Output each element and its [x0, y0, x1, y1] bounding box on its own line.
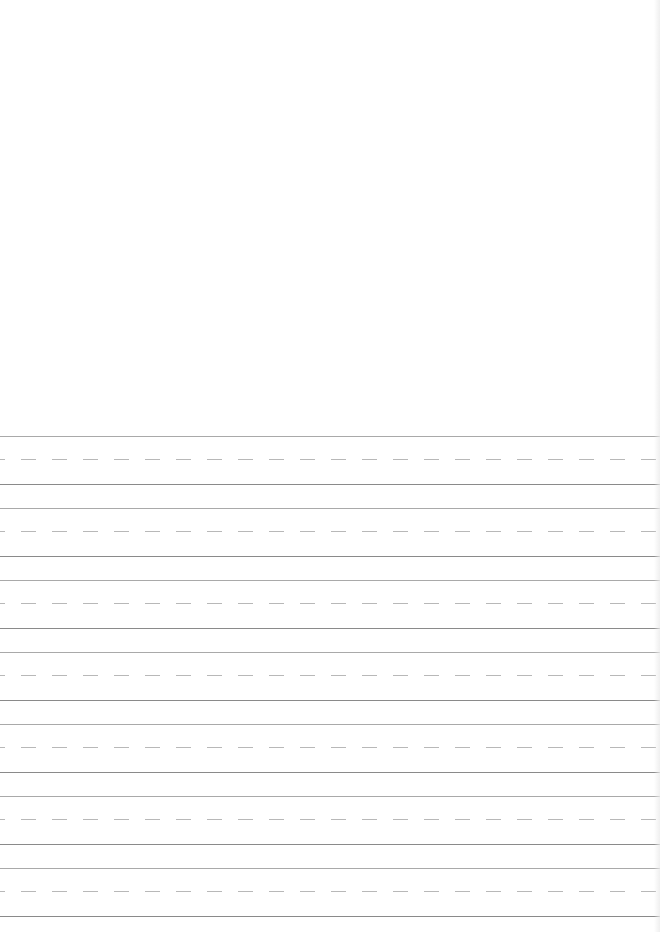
top-line	[0, 796, 660, 797]
baseline	[0, 916, 660, 917]
dashed-midline	[0, 531, 660, 532]
writing-row[interactable]	[0, 796, 660, 844]
top-line	[0, 580, 660, 581]
writing-row[interactable]	[0, 508, 660, 556]
writing-row[interactable]	[0, 868, 660, 916]
practice-sheet	[0, 0, 660, 932]
top-line	[0, 724, 660, 725]
drawing-area[interactable]	[0, 0, 660, 430]
dashed-midline	[0, 675, 660, 676]
top-line	[0, 652, 660, 653]
writing-row[interactable]	[0, 724, 660, 772]
top-line	[0, 868, 660, 869]
top-line	[0, 436, 660, 437]
top-line	[0, 508, 660, 509]
baseline	[0, 484, 660, 485]
writing-row[interactable]	[0, 652, 660, 700]
dashed-midline	[0, 891, 660, 892]
dashed-midline	[0, 603, 660, 604]
baseline	[0, 628, 660, 629]
page-edge-shadow	[654, 0, 660, 932]
dashed-midline	[0, 459, 660, 460]
baseline	[0, 844, 660, 845]
dashed-midline	[0, 819, 660, 820]
baseline	[0, 772, 660, 773]
dashed-midline	[0, 747, 660, 748]
writing-row[interactable]	[0, 580, 660, 628]
baseline	[0, 556, 660, 557]
writing-row[interactable]	[0, 436, 660, 484]
baseline	[0, 700, 660, 701]
